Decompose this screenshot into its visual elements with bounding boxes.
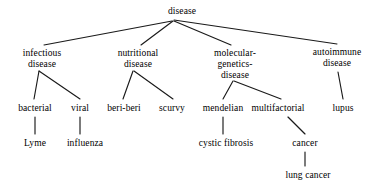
tree-edge [34, 71, 39, 99]
tree-node-disease: disease [168, 6, 196, 17]
tree-node-influenza: influenza [67, 138, 103, 149]
tree-edge [123, 71, 133, 99]
tree-edge [39, 71, 80, 99]
tree-node-lupus: lupus [332, 103, 353, 114]
tree-node-mendelian: mendelian [203, 103, 243, 114]
tree-node-viral: viral [71, 103, 89, 114]
tree-node-nutritional: nutritional disease [118, 48, 159, 70]
tree-node-infectious: infectious disease [23, 48, 61, 70]
tree-edge [44, 21, 172, 45]
tree-edges-layer [0, 0, 388, 189]
tree-edge [223, 81, 233, 99]
tree-node-molecular: molecular- genetics- disease [214, 48, 256, 81]
tree-node-beriberi: beri-beri [107, 103, 141, 114]
tree-edge [288, 117, 305, 134]
tree-node-lyme: Lyme [24, 138, 46, 149]
tree-node-autoimmune: autoimmune disease [313, 47, 362, 69]
tree-node-bacterial: bacterial [18, 103, 52, 114]
tree-edge [134, 71, 173, 99]
tree-node-multifactorial: multifactorial [251, 103, 304, 114]
tree-node-cancer: cancer [292, 138, 317, 149]
disease-taxonomy-diagram: diseaseinfectious diseasenutritional dis… [0, 0, 388, 189]
tree-edge [174, 21, 231, 45]
tree-node-scurvy: scurvy [159, 103, 185, 114]
tree-node-lungcancer: lung cancer [285, 170, 330, 181]
tree-edge [174, 20, 337, 44]
tree-edge [338, 72, 343, 99]
tree-node-cysticfibrosis: cystic fibrosis [199, 138, 254, 149]
tree-edge [234, 81, 281, 99]
tree-edge [141, 21, 173, 45]
